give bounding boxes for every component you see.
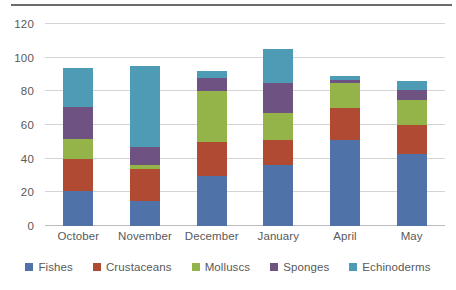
- y-axis-tick-label: 80: [21, 85, 34, 97]
- y-axis-tick-label: 40: [21, 153, 34, 165]
- legend-swatch-icon: [192, 263, 200, 271]
- stacked-bar[interactable]: [197, 71, 227, 226]
- y-axis-tick-label: 60: [21, 119, 34, 131]
- stacked-bar[interactable]: [63, 68, 93, 226]
- bar-segment-crustaceans[interactable]: [330, 108, 360, 140]
- bar-segment-crustaceans[interactable]: [130, 169, 160, 201]
- bar-segment-fishes[interactable]: [330, 140, 360, 226]
- legend-swatch-icon: [270, 263, 278, 271]
- legend-label: Molluscs: [205, 261, 251, 273]
- bar-segment-echinoderms[interactable]: [397, 81, 427, 89]
- legend-label: Fishes: [38, 261, 72, 273]
- y-axis-tick-labels: 020406080100120: [0, 24, 40, 226]
- bar-group: [312, 24, 379, 226]
- bar-segment-sponges[interactable]: [130, 147, 160, 166]
- legend-label: Crustaceans: [106, 261, 172, 273]
- x-axis-tick-label: November: [112, 230, 179, 248]
- stacked-bar[interactable]: [397, 81, 427, 226]
- bar-segment-fishes[interactable]: [63, 191, 93, 226]
- bar-group: [178, 24, 245, 226]
- chart-legend: FishesCrustaceansMolluscsSpongesEchinode…: [0, 261, 456, 273]
- bar-segment-crustaceans[interactable]: [63, 159, 93, 191]
- bar-segment-fishes[interactable]: [397, 154, 427, 226]
- bar-segment-crustaceans[interactable]: [263, 140, 293, 165]
- legend-item[interactable]: Fishes: [25, 261, 72, 273]
- stacked-bar[interactable]: [263, 49, 293, 226]
- bar-segment-molluscs[interactable]: [197, 91, 227, 142]
- bar-segment-molluscs[interactable]: [330, 83, 360, 108]
- header-divider: [11, 4, 452, 6]
- stacked-bar[interactable]: [130, 66, 160, 226]
- legend-swatch-icon: [25, 263, 33, 271]
- y-axis-tick-label: 20: [21, 186, 34, 198]
- legend-swatch-icon: [93, 263, 101, 271]
- bar-segment-sponges[interactable]: [197, 78, 227, 91]
- bar-group: [378, 24, 445, 226]
- x-axis-tick-label: May: [378, 230, 445, 248]
- legend-label: Sponges: [283, 261, 329, 273]
- x-axis-tick-label: January: [245, 230, 312, 248]
- y-axis-tick-label: 120: [14, 18, 34, 30]
- bar-segment-echinoderms[interactable]: [63, 68, 93, 107]
- stacked-bar[interactable]: [330, 76, 360, 226]
- bar-segment-molluscs[interactable]: [63, 139, 93, 159]
- bar-segment-crustaceans[interactable]: [197, 142, 227, 176]
- bar-segment-echinoderms[interactable]: [130, 66, 160, 147]
- bar-group: [45, 24, 112, 226]
- bar-groups: [45, 24, 445, 226]
- x-axis-tick-label: December: [178, 230, 245, 248]
- bar-segment-crustaceans[interactable]: [397, 125, 427, 154]
- bar-segment-sponges[interactable]: [263, 83, 293, 113]
- stacked-bar-chart: 020406080100120 OctoberNovemberDecemberJ…: [0, 0, 456, 290]
- legend-label: Echinoderms: [362, 261, 430, 273]
- legend-item[interactable]: Sponges: [270, 261, 329, 273]
- bar-group: [245, 24, 312, 226]
- bar-segment-fishes[interactable]: [197, 176, 227, 227]
- legend-swatch-icon: [349, 263, 357, 271]
- bar-group: [112, 24, 179, 226]
- bar-segment-fishes[interactable]: [263, 165, 293, 226]
- plot-area: [45, 24, 445, 226]
- bar-segment-echinoderms[interactable]: [263, 49, 293, 83]
- x-axis-tick-labels: OctoberNovemberDecemberJanuaryAprilMay: [45, 230, 445, 248]
- y-axis-tick-label: 0: [27, 220, 34, 232]
- legend-item[interactable]: Echinoderms: [349, 261, 430, 273]
- bar-segment-fishes[interactable]: [130, 201, 160, 226]
- y-axis-tick-label: 100: [14, 52, 34, 64]
- x-axis-tick-label: April: [312, 230, 379, 248]
- legend-item[interactable]: Molluscs: [192, 261, 251, 273]
- bar-segment-molluscs[interactable]: [263, 113, 293, 140]
- bar-segment-sponges[interactable]: [397, 90, 427, 100]
- x-axis-tick-label: October: [45, 230, 112, 248]
- bar-segment-molluscs[interactable]: [397, 100, 427, 125]
- legend-item[interactable]: Crustaceans: [93, 261, 172, 273]
- bar-segment-sponges[interactable]: [63, 107, 93, 139]
- bar-segment-echinoderms[interactable]: [197, 71, 227, 78]
